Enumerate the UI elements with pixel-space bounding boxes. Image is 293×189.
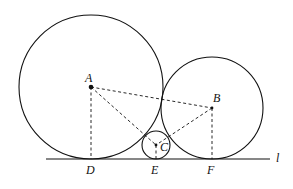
label-a: A xyxy=(85,72,92,84)
label-line-l: l xyxy=(276,152,279,164)
point-c xyxy=(155,144,158,147)
label-d: D xyxy=(86,164,95,176)
label-e: E xyxy=(151,164,158,176)
geometry-figure xyxy=(0,0,293,189)
label-b: B xyxy=(213,92,220,104)
point-a xyxy=(89,85,94,90)
label-f: F xyxy=(207,164,214,176)
label-c: C xyxy=(160,141,168,153)
segment-ac xyxy=(91,87,156,145)
diagram-canvas: A B C D E F l xyxy=(0,0,293,189)
point-b xyxy=(211,107,214,110)
segment-ab xyxy=(91,87,212,108)
